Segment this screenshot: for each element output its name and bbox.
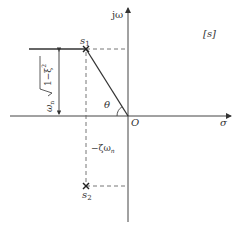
origin-label: O — [131, 117, 139, 128]
svg-text:ωn: ωn — [44, 101, 55, 112]
angle-arc — [117, 107, 122, 116]
imag-part-label: ωn 1−ξ2 — [40, 56, 55, 112]
real-axis-label: σ — [220, 117, 228, 128]
plane-label: [s] — [203, 28, 216, 39]
imag-axis-label: jω — [111, 9, 123, 20]
real-part-label: −ζωn — [91, 143, 115, 154]
s-plane-diagram: jω [s] s1 θ O σ −ζωn s2 ωn 1−ξ2 — [0, 0, 234, 234]
pole-s2-label: s2 — [82, 189, 92, 202]
pole-s1-label: s1 — [80, 35, 90, 48]
angle-label: θ — [104, 99, 110, 110]
svg-text:1−ξ2: 1−ξ2 — [40, 64, 53, 86]
